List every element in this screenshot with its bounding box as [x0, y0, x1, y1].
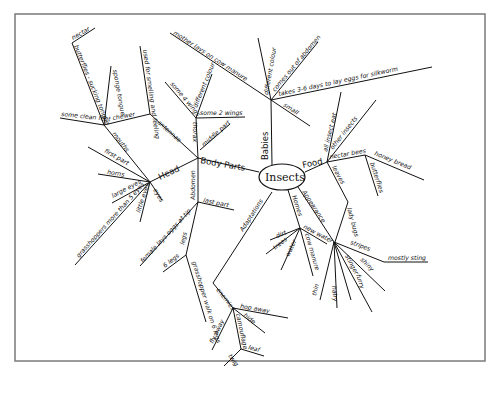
center-label: Insects: [265, 171, 305, 184]
thorax-label: thorax: [192, 122, 199, 142]
some-2-wings-label: some 2 wings: [200, 109, 243, 117]
abdomen-label: Abdomen: [189, 170, 196, 201]
mostly-sting-label: mostly sting: [388, 254, 426, 262]
mind-map-canvas: Insects Body Parts Head first part horns…: [0, 0, 498, 402]
babies-label: Babies: [260, 131, 270, 160]
